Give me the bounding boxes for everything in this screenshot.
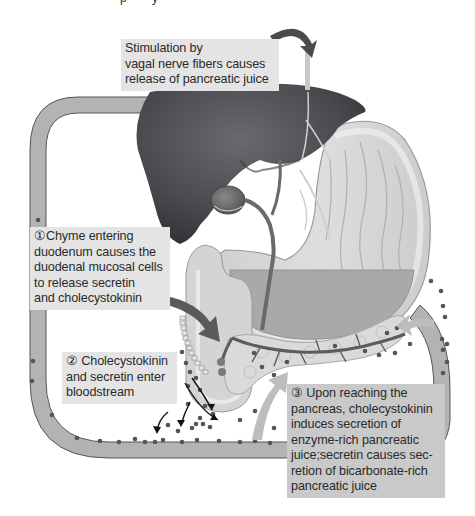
step3-label: ③ Upon reaching the pancreas, cholecysto… <box>287 384 445 498</box>
label-line: vagal nerve fibers causes <box>125 57 275 73</box>
label-line: bloodstream <box>66 385 173 401</box>
step2-label: ② Cholecystokinin and secretin enter blo… <box>62 352 177 404</box>
figure-header-partial: · · · p · · · y · · <box>0 0 475 5</box>
gallbladder <box>211 186 245 214</box>
label-line: duodenum causes the <box>34 245 166 261</box>
label-line: juice;secretin causes sec- <box>291 448 441 464</box>
label-line: release of pancreatic juice <box>125 72 275 88</box>
vagal-stimulation-label: Stimulation by vagal nerve fibers causes… <box>121 39 279 91</box>
label-line: and secretin enter <box>66 370 173 386</box>
label-line: enzyme-rich pancreatic <box>291 433 441 449</box>
label-line: retion of bicarbonate-rich <box>291 464 441 480</box>
step1-label: ①Chyme entering duodenum causes the duod… <box>30 227 170 310</box>
label-line: Stimulation by <box>125 41 275 57</box>
label-line: duodenal mucosal cells <box>34 260 166 276</box>
label-line: ③ Upon reaching the <box>291 386 441 402</box>
label-line: induces secretion of <box>291 417 441 433</box>
pancreatic-secretion-diagram: · · · p · · · y · · Stimulation by vagal… <box>0 0 475 516</box>
label-line: ①Chyme entering <box>34 229 166 245</box>
label-line: and cholecystokinin <box>34 291 166 307</box>
label-line: pancreatic juice <box>291 479 441 495</box>
label-line: ② Cholecystokinin <box>66 354 173 370</box>
pancreas-stimulation-arrow-icon <box>252 372 288 440</box>
label-line: pancreas, cholecystokinin <box>291 402 441 418</box>
label-line: to release secretin <box>34 276 166 292</box>
